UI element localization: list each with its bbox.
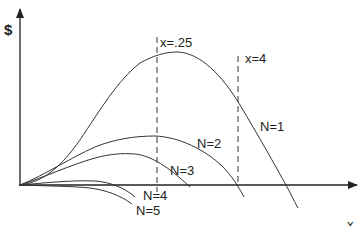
y-axis-label: $ <box>4 22 12 37</box>
ref-line-x-4-label: x=4 <box>245 52 266 65</box>
curve-n4-label: N=4 <box>143 189 167 202</box>
curve-n3-label: N=3 <box>170 164 194 177</box>
curve-n5-label: N=5 <box>136 204 160 217</box>
diagram-canvas <box>0 0 360 226</box>
ref-line-x-025-label: x=.25 <box>160 36 192 49</box>
curve-n2-label: N=2 <box>197 137 221 150</box>
curve-n4 <box>20 181 135 197</box>
x-axis-label: x <box>347 218 354 226</box>
curve-n5 <box>20 185 132 204</box>
profit-curves-diagram: $ x x=.25 x=4 N=1 N=2 N=3 N=4 N=5 <box>0 0 360 226</box>
curve-n1-label: N=1 <box>260 120 284 133</box>
